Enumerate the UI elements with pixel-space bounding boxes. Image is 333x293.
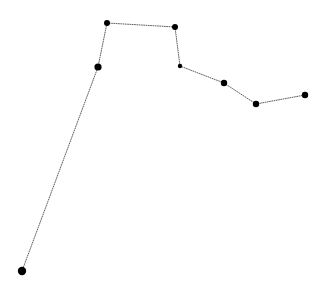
data-point-marker[interactable] <box>253 101 259 107</box>
data-point-marker[interactable] <box>94 63 101 70</box>
chart-background <box>0 0 333 293</box>
chart-canvas <box>0 0 333 293</box>
data-point-marker[interactable] <box>104 20 110 26</box>
line-chart-svg <box>0 0 333 293</box>
data-point-marker[interactable] <box>302 92 308 98</box>
data-point-marker[interactable] <box>178 64 182 68</box>
data-point-marker[interactable] <box>18 267 26 275</box>
data-point-marker[interactable] <box>172 24 178 30</box>
data-point-marker[interactable] <box>221 80 227 86</box>
